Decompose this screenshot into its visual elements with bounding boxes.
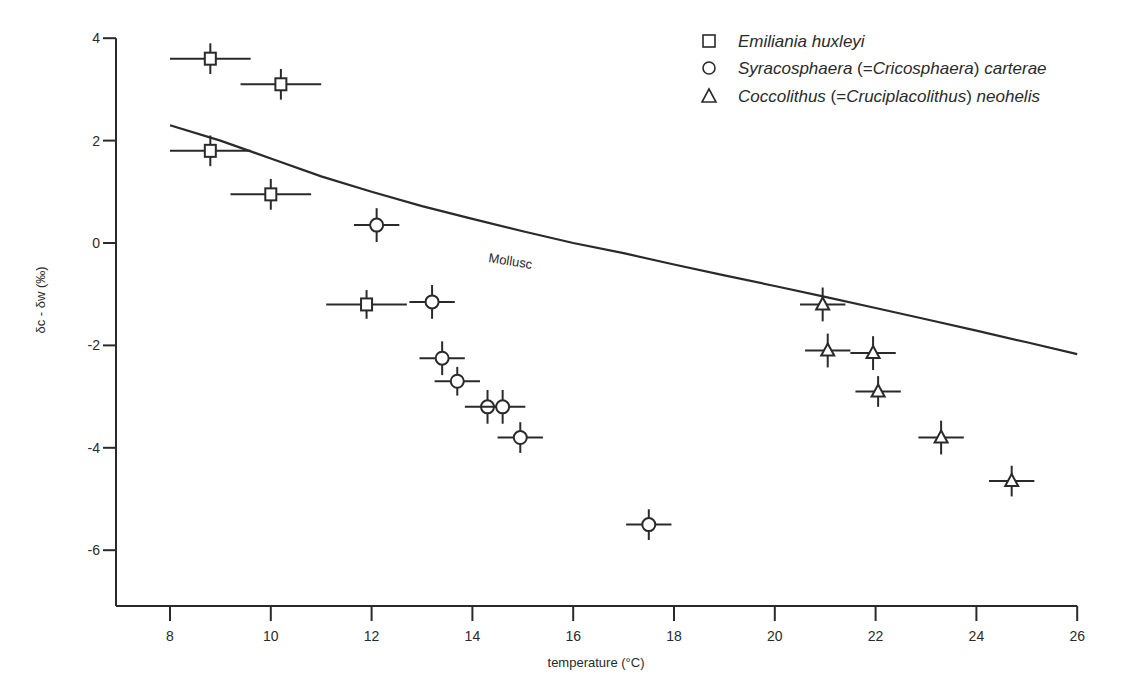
triangle-legend-icon xyxy=(702,89,716,102)
square-marker xyxy=(361,298,372,310)
y-tick-label: -4 xyxy=(88,440,101,456)
x-tick-label: 12 xyxy=(364,628,380,644)
square-marker xyxy=(205,145,216,157)
x-tick-label: 22 xyxy=(868,628,884,644)
mollusc-line xyxy=(170,125,1077,354)
data-point xyxy=(354,208,399,242)
x-tick-label: 24 xyxy=(969,628,985,644)
y-tick-label: -6 xyxy=(88,542,101,558)
data-point xyxy=(918,421,963,455)
y-tick-label: 2 xyxy=(92,133,100,149)
data-point xyxy=(170,135,251,166)
x-tick-label: 18 xyxy=(666,628,682,644)
circle-marker xyxy=(642,518,655,531)
mollusc-curve: Mollusc xyxy=(170,125,1077,354)
x-tick-label: 14 xyxy=(465,628,481,644)
y-tick-label: 4 xyxy=(92,30,100,46)
x-axis-title: temperature (°C) xyxy=(548,655,645,670)
x-tick-label: 10 xyxy=(263,628,279,644)
circle-marker xyxy=(451,375,464,388)
circle-legend-icon xyxy=(703,62,715,74)
axes: 420-2-4-68101214161820222426 xyxy=(88,30,1086,644)
y-axis-title: δc - δw (‰) xyxy=(33,266,48,333)
legend-item-triangle: Coccolithus (=Cruciplacolithus) neohelis xyxy=(702,87,1040,106)
data-point xyxy=(855,376,900,407)
x-tick-label: 26 xyxy=(1069,628,1085,644)
data-point xyxy=(498,422,543,453)
circle-marker xyxy=(370,219,383,232)
data-point xyxy=(805,334,850,368)
square-marker xyxy=(205,53,216,65)
data-point xyxy=(409,285,454,319)
series-square xyxy=(170,43,407,318)
data-point xyxy=(626,509,671,540)
y-tick-label: -2 xyxy=(88,337,101,353)
legend-label: Syracosphaera (=Cricosphaera) carterae xyxy=(738,59,1047,78)
legend-label: Emiliania huxleyi xyxy=(738,32,866,51)
circle-marker xyxy=(436,352,449,365)
square-legend-icon xyxy=(703,35,715,47)
data-point xyxy=(241,69,322,100)
legend-label: Coccolithus (=Cruciplacolithus) neohelis xyxy=(738,87,1040,106)
circle-marker xyxy=(426,295,439,308)
x-tick-label: 20 xyxy=(767,628,783,644)
circle-marker xyxy=(514,431,527,444)
square-marker xyxy=(275,78,286,90)
scatter-chart: 420-2-4-68101214161820222426 Mollusc Emi… xyxy=(0,0,1138,696)
data-point xyxy=(170,43,251,74)
square-marker xyxy=(265,188,276,200)
legend: Emiliania huxleyiSyracosphaera (=Cricosp… xyxy=(702,32,1047,106)
y-tick-label: 0 xyxy=(92,235,100,251)
data-point xyxy=(850,336,895,370)
x-tick-label: 8 xyxy=(166,628,174,644)
data-point xyxy=(230,179,311,210)
data-points xyxy=(170,43,1034,540)
mollusc-label: Mollusc xyxy=(488,250,534,272)
x-tick-label: 16 xyxy=(565,628,581,644)
legend-item-circle: Syracosphaera (=Cricosphaera) carterae xyxy=(703,59,1047,78)
series-triangle xyxy=(800,288,1034,497)
legend-item-square: Emiliania huxleyi xyxy=(703,32,866,51)
circle-marker xyxy=(496,400,509,413)
data-point xyxy=(989,466,1034,497)
data-point xyxy=(326,290,407,319)
